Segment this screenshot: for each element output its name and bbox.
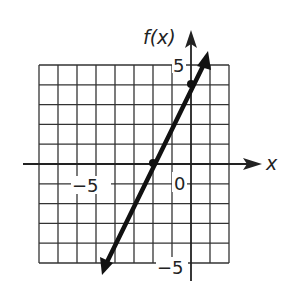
function-graph: f(x) x 5 −5 0 −5 [0, 0, 288, 299]
origin-label: 0 [174, 173, 185, 194]
y-axis-label: f(x) [143, 26, 176, 48]
y-tick-5-label: 5 [173, 55, 184, 76]
x-axis-label: x [265, 152, 278, 174]
x-tick-neg5-label: −5 [72, 175, 99, 196]
x-axis [23, 158, 262, 170]
y-tick-neg5-label: −5 [157, 257, 184, 278]
y-intercept-point [187, 80, 195, 88]
line-arrow-top-icon [197, 51, 211, 70]
x-intercept-point [149, 159, 157, 167]
